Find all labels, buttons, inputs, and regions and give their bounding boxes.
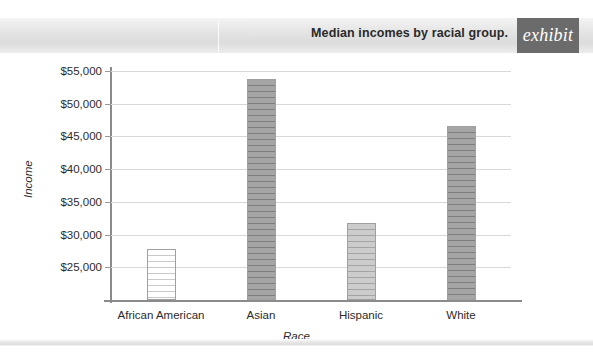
y-tick-label: $55,000: [60, 65, 102, 77]
page-bottom-rule: [0, 339, 593, 346]
exhibit-badge-label: exhibit: [523, 25, 573, 46]
x-tick-label: Hispanic: [339, 309, 383, 321]
x-tick-label: Asian: [247, 309, 276, 321]
y-tick-mark: [105, 136, 111, 137]
bar: [347, 223, 376, 300]
y-axis-title: Income: [22, 160, 34, 198]
y-tick-mark: [105, 104, 111, 105]
y-tick-mark: [105, 202, 111, 203]
y-tick-label: $30,000: [60, 229, 102, 241]
y-tick-mark: [105, 169, 111, 170]
gridline: [111, 104, 511, 105]
bar: [447, 126, 476, 300]
y-tick-label: $45,000: [60, 130, 102, 142]
exhibit-title: Median incomes by racial group.: [240, 26, 508, 40]
bar: [247, 79, 276, 300]
bar-chart: Income Race $25,000$30,000$35,000$40,000…: [0, 53, 593, 339]
y-tick-mark: [105, 235, 111, 236]
x-tick-label: White: [446, 309, 475, 321]
y-tick-label: $40,000: [60, 163, 102, 175]
x-axis-line: [104, 300, 522, 302]
plot-area: $25,000$30,000$35,000$40,000$45,000$50,0…: [111, 71, 511, 300]
header-divider: [218, 19, 219, 52]
gridline: [111, 71, 511, 72]
y-tick-label: $25,000: [60, 261, 102, 273]
x-tick-label: African American: [118, 309, 205, 321]
y-tick-mark: [105, 267, 111, 268]
y-tick-label: $35,000: [60, 196, 102, 208]
y-tick-mark: [105, 71, 111, 72]
bar: [147, 249, 176, 300]
y-tick-label: $50,000: [60, 98, 102, 110]
exhibit-badge: exhibit: [517, 18, 579, 53]
